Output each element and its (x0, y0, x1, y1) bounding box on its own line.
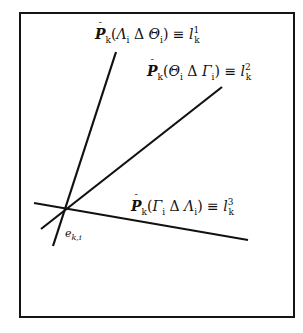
lines-layer (0, 0, 303, 333)
label-l2: ¯Pk(Θi Δ Γi) ≡ l2k (147, 64, 251, 78)
label-l3: ¯Pk(Γi Δ Λi) ≡ l3k (131, 199, 234, 213)
label-l1: ¯Pk(Λi Δ Θi) ≡ l1k (95, 27, 200, 41)
operator-symbol: ¯P (147, 63, 158, 79)
line-l1 (53, 52, 116, 246)
operator-symbol: ¯P (95, 26, 106, 42)
operator-symbol: ¯P (131, 198, 142, 214)
intersection-label: ek,i (65, 227, 81, 240)
